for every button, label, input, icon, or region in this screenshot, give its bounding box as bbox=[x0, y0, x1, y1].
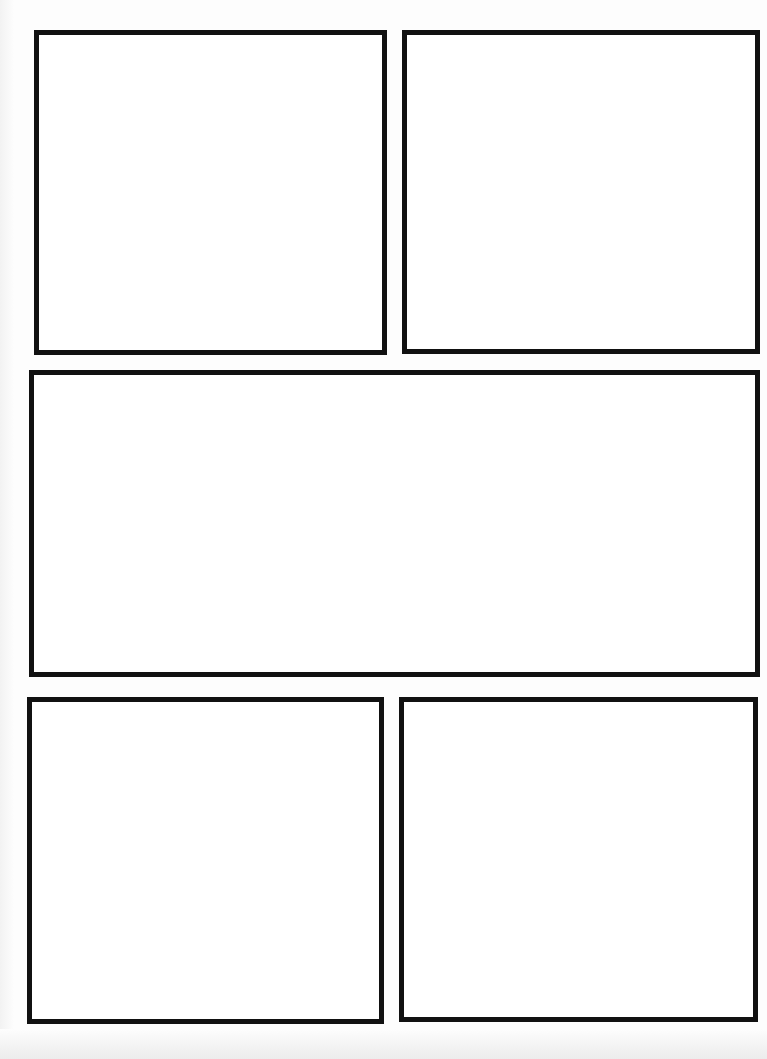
panel-2 bbox=[402, 30, 760, 354]
panel-5 bbox=[399, 697, 758, 1022]
panel-4 bbox=[27, 697, 384, 1024]
page-bottom-shadow bbox=[0, 1029, 767, 1059]
panel-1 bbox=[34, 30, 387, 355]
panel-3 bbox=[29, 370, 760, 677]
comic-page bbox=[0, 0, 767, 1059]
